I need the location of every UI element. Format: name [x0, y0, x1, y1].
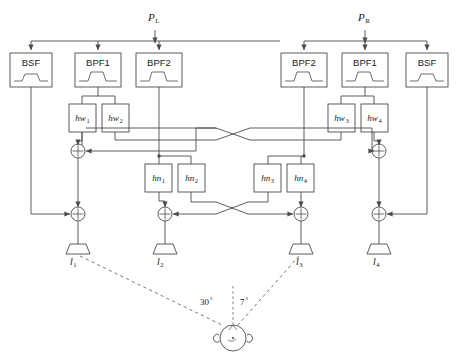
shape-speaker-4 [367, 244, 391, 254]
filter-label-bsf-right: BSF [406, 57, 448, 68]
angle-7-label: 7° [240, 296, 248, 307]
glyph-bump-bpf2-left [140, 72, 178, 81]
hw3-label: hw3 [328, 113, 355, 124]
hw1-label: hw1 [69, 113, 96, 124]
filter-label-bpf1-right: BPF1 [342, 57, 388, 68]
shape-speaker-1 [66, 244, 90, 254]
shape-speaker-2 [153, 244, 177, 254]
shape-head-center [232, 337, 234, 339]
speaker-4-label: l4 [373, 256, 380, 268]
shape-head-arc [228, 339, 236, 341]
glyph-bump-bpf1-right [346, 72, 384, 81]
ray-speaker1-to-listener [80, 256, 224, 326]
hw2-label: hw2 [102, 113, 129, 124]
speaker-1-label: l1 [70, 256, 77, 268]
angle-30-label: 30° [200, 296, 213, 307]
glyph-bump-bpf1-left [79, 72, 117, 81]
hn4-label: hn4 [287, 173, 314, 184]
filter-label-bpf2-left: BPF2 [136, 57, 182, 68]
shape-left-ear [214, 334, 220, 342]
speaker-3-label: l3 [296, 256, 303, 268]
glyph-bump-bpf2-right [285, 72, 323, 81]
filter-label-bsf-left: BSF [10, 57, 52, 68]
glyph-notch-right [410, 74, 444, 81]
hn1-label: hn1 [145, 173, 172, 184]
hn2-label: hn2 [178, 173, 205, 184]
shape-speaker-3 [289, 244, 313, 254]
filter-label-bpf2-right: BPF2 [281, 57, 327, 68]
filter-label-bpf1-left: BPF1 [75, 57, 121, 68]
hn3-label: hn3 [254, 173, 281, 184]
shape-right-ear [246, 334, 252, 342]
speaker-2-label: l2 [157, 256, 164, 268]
diagram-vector-layer [0, 0, 463, 364]
input-label-pr: PR [358, 12, 370, 25]
glyph-notch-left [14, 74, 48, 81]
diagram-canvas: PL PR BSF BPF1 BPF2 BPF2 BPF1 BSF hw1 hw… [0, 0, 463, 364]
ray-speaker3-to-listener [238, 256, 299, 325]
hw4-label: hw4 [361, 113, 388, 124]
input-label-pl: PL [148, 12, 160, 25]
